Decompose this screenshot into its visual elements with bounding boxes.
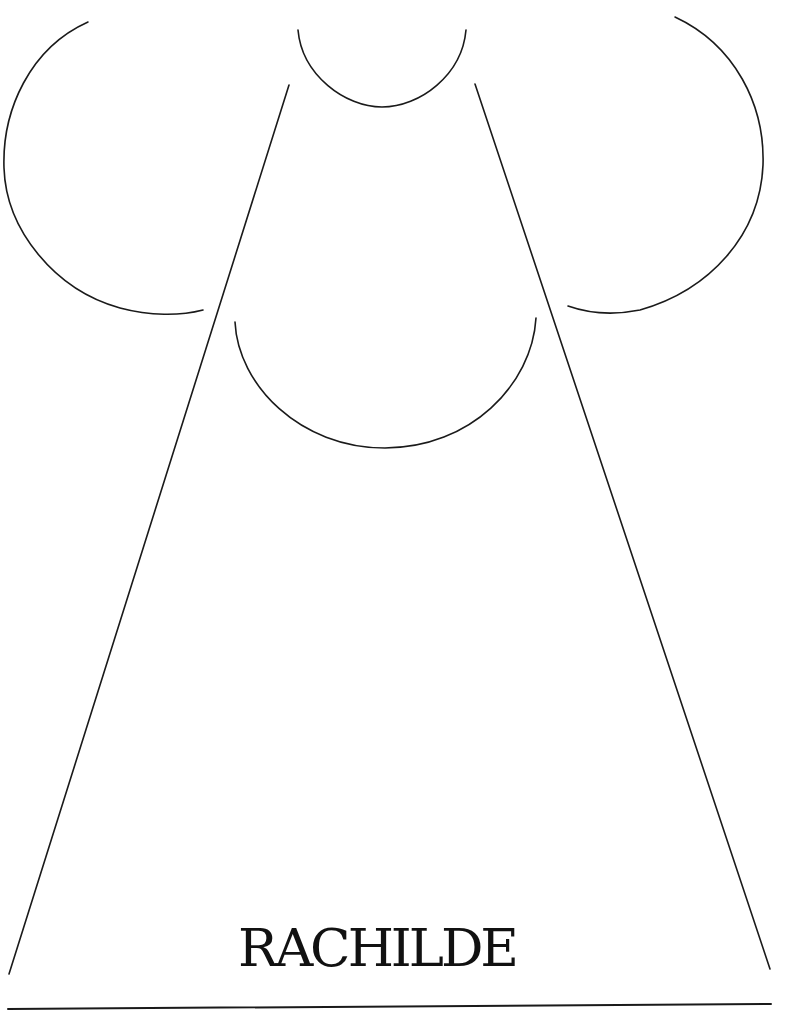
baseline-rule — [8, 1004, 771, 1009]
left-arc — [4, 22, 203, 314]
right-arc — [568, 17, 763, 313]
middle-arc — [235, 318, 536, 448]
top-arc — [298, 30, 466, 107]
right-diagonal-line — [475, 84, 770, 969]
left-diagonal-line — [9, 85, 289, 974]
title-text: RACHILDE — [238, 918, 544, 978]
line-drawing — [0, 0, 785, 1021]
